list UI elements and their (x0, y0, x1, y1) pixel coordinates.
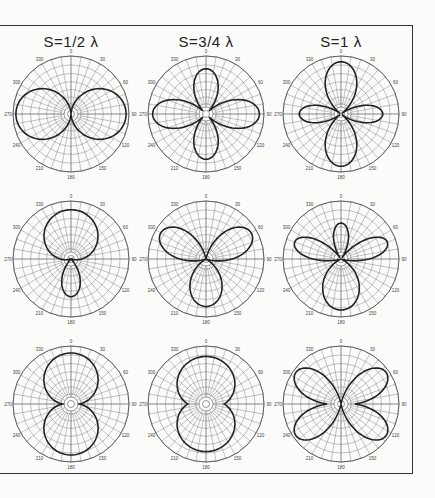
angle-tick-label: 270 (274, 257, 282, 262)
angle-tick-label: 120 (257, 143, 265, 148)
angle-tick-label: 210 (171, 456, 179, 461)
angle-tick-label: 210 (36, 166, 44, 171)
angle-tick-label: 120 (257, 433, 265, 438)
angle-tick-label: 30 (370, 57, 376, 62)
angle-tick-label: 60 (393, 370, 399, 375)
angle-tick-label: 150 (234, 311, 242, 316)
angle-tick-label: 150 (99, 456, 107, 461)
angle-tick-label: 300 (13, 370, 21, 375)
angle-tick-label: 30 (100, 202, 106, 207)
angle-tick-label: 60 (258, 225, 264, 230)
angle-tick-label: 150 (369, 311, 377, 316)
angle-tick-label: 210 (171, 311, 179, 316)
polar-plot-r0c0: 0306090120150180210240270300330 (4, 49, 137, 180)
angle-tick-label: 120 (392, 288, 400, 293)
angle-tick-label: 60 (123, 80, 129, 85)
angle-tick-label: 60 (123, 370, 129, 375)
polar-plot-r0c2: 0306090120150180210240270300330 (274, 49, 407, 180)
angle-tick-label: 90 (401, 112, 407, 117)
angle-tick-label: 90 (266, 402, 272, 407)
angle-tick-label: 270 (274, 112, 282, 117)
angle-tick-label: 150 (234, 456, 242, 461)
angle-tick-label: 270 (139, 257, 147, 262)
angle-tick-label: 240 (283, 433, 291, 438)
angle-tick-label: 330 (36, 57, 44, 62)
angle-tick-label: 120 (392, 433, 400, 438)
angle-tick-label: 0 (70, 194, 73, 199)
angle-tick-label: 0 (70, 339, 73, 344)
angle-tick-label: 60 (393, 225, 399, 230)
angle-tick-label: 30 (100, 347, 106, 352)
angle-tick-label: 90 (131, 112, 137, 117)
angle-tick-label: 240 (283, 288, 291, 293)
angle-tick-label: 240 (283, 143, 291, 148)
angle-tick-label: 0 (70, 49, 73, 54)
angle-tick-label: 180 (202, 465, 210, 470)
angle-tick-label: 60 (258, 80, 264, 85)
polar-plot-r1c2: 0306090120150180210240270300330 (274, 194, 407, 325)
angle-tick-label: 270 (274, 402, 282, 407)
angle-tick-label: 30 (370, 347, 376, 352)
angle-tick-label: 330 (171, 57, 179, 62)
angle-tick-label: 270 (4, 257, 12, 262)
angle-tick-label: 30 (235, 347, 241, 352)
angle-tick-label: 240 (148, 143, 156, 148)
angle-tick-label: 240 (13, 143, 21, 148)
angle-tick-label: 0 (340, 49, 343, 54)
polar-plot-r0c1: 0306090120150180210240270300330 (139, 49, 272, 180)
angle-tick-label: 210 (306, 166, 314, 171)
angle-tick-label: 150 (369, 456, 377, 461)
polar-plots-grid: 0306090120150180210240270300330030609012… (0, 0, 435, 498)
polar-plot-r1c0: 0306090120150180210240270300330 (4, 194, 137, 325)
angle-tick-label: 300 (148, 370, 156, 375)
angle-tick-label: 300 (283, 370, 291, 375)
angle-tick-label: 210 (36, 311, 44, 316)
angle-tick-label: 330 (36, 202, 44, 207)
angle-tick-label: 300 (13, 225, 21, 230)
angle-tick-label: 180 (202, 175, 210, 180)
angle-tick-label: 150 (99, 166, 107, 171)
polar-plot-r2c0: 0306090120150180210240270300330 (4, 339, 137, 470)
angle-tick-label: 300 (13, 80, 21, 85)
angle-tick-label: 0 (340, 339, 343, 344)
angle-tick-label: 180 (337, 320, 345, 325)
angle-tick-label: 30 (235, 202, 241, 207)
angle-tick-label: 0 (205, 194, 208, 199)
polar-plot-r2c1: 0306090120150180210240270300330 (139, 339, 272, 470)
angle-tick-label: 30 (100, 57, 106, 62)
angle-tick-label: 300 (148, 225, 156, 230)
angle-tick-label: 90 (266, 112, 272, 117)
angle-tick-label: 120 (122, 433, 130, 438)
angle-tick-label: 330 (306, 57, 314, 62)
angle-tick-label: 60 (258, 370, 264, 375)
angle-tick-label: 270 (139, 402, 147, 407)
angle-tick-label: 330 (171, 347, 179, 352)
angle-tick-label: 180 (67, 320, 75, 325)
angle-tick-label: 60 (123, 225, 129, 230)
angle-tick-label: 30 (235, 57, 241, 62)
angle-tick-label: 300 (148, 80, 156, 85)
angle-tick-label: 240 (148, 288, 156, 293)
angle-tick-label: 330 (306, 347, 314, 352)
angle-tick-label: 150 (234, 166, 242, 171)
angle-tick-label: 90 (131, 257, 137, 262)
angle-tick-label: 90 (401, 402, 407, 407)
angle-tick-label: 180 (67, 465, 75, 470)
angle-tick-label: 180 (337, 465, 345, 470)
angle-tick-label: 210 (171, 166, 179, 171)
angle-tick-label: 180 (202, 320, 210, 325)
angle-tick-label: 270 (139, 112, 147, 117)
angle-tick-label: 90 (401, 257, 407, 262)
angle-tick-label: 0 (205, 339, 208, 344)
angle-tick-label: 60 (393, 80, 399, 85)
angle-tick-label: 0 (205, 49, 208, 54)
angle-tick-label: 240 (148, 433, 156, 438)
angle-tick-label: 90 (131, 402, 137, 407)
angle-tick-label: 270 (4, 112, 12, 117)
angle-tick-label: 90 (266, 257, 272, 262)
angle-tick-label: 330 (36, 347, 44, 352)
polar-plot-r2c2: 0306090120150180210240270300330 (274, 339, 407, 470)
angle-tick-label: 150 (369, 166, 377, 171)
angle-tick-label: 210 (306, 311, 314, 316)
angle-tick-label: 150 (99, 311, 107, 316)
